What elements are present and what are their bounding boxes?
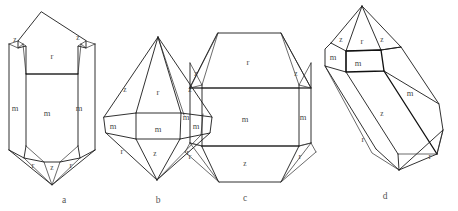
crystal-d-label-z-body: z [380, 109, 384, 118]
crystal-a-caption: a [62, 195, 67, 205]
crystal-b-label-r-upper: r [157, 87, 160, 97]
crystal-d-label-z-right: z [380, 35, 384, 44]
crystal-c-caption: c [243, 193, 247, 203]
crystal-d-left-back-lines [325, 66, 399, 170]
crystal-c-bottom-face [202, 146, 299, 182]
crystal-a-label-r-bot-right: r [70, 160, 73, 170]
crystal-b-caption: b [156, 195, 161, 205]
crystal-b-lower-pyramid [106, 133, 210, 180]
crystal-d-label-r-top: r [361, 36, 364, 46]
crystal-d-prism-front-edge [384, 71, 437, 154]
crystal-d-label-z-left: z [339, 35, 343, 44]
crystal-a-label-m-left: m [12, 103, 19, 113]
crystal-d-label-r-lower: r [362, 134, 365, 144]
crystal-b-group: b zrzmmmrzr [104, 37, 212, 205]
crystal-c-label-m-left: m [183, 112, 190, 122]
crystal-c-bottom-r-left [185, 143, 219, 182]
crystal-d-front-girdle [346, 50, 384, 72]
crystal-diagram-svg: a zrzmmmrzr b zrzmmmrzr [0, 0, 458, 211]
crystal-a-label-m-center: m [44, 108, 51, 118]
crystal-a-label-m-right: m [76, 103, 83, 113]
crystal-c-label-m-right: m [300, 112, 307, 122]
crystal-d-group: d zrzmmmzrr [325, 6, 443, 201]
crystal-a-label-r-top: r [51, 51, 54, 61]
crystal-d-label-r-bottom: r [429, 151, 432, 161]
crystal-c-label-r-bot-right: r [299, 151, 302, 161]
crystal-a-top-termination [18, 12, 86, 74]
crystal-d-label-m-right: m [407, 88, 414, 98]
crystal-d-apex-rays [331, 6, 401, 51]
crystal-c-prism-left-edges [190, 88, 202, 146]
crystal-b-upper-pyramid-inner [158, 37, 184, 115]
crystal-c-bottom-r-right [281, 143, 316, 182]
crystal-a-label-z-top-left: z [13, 35, 17, 44]
crystal-b-label-m-center: m [155, 124, 162, 134]
crystal-d-label-m-small: m [330, 52, 337, 62]
crystal-b-lower-pyramid-inner [157, 135, 201, 180]
crystal-d-caption: d [383, 191, 388, 201]
crystal-c-prism-body [202, 85, 299, 146]
crystal-a-prism-right-top [86, 41, 95, 48]
crystal-b-label-m-right: m [193, 121, 200, 131]
crystal-c-label-z-bottom: z [243, 159, 247, 168]
crystal-a-label-r-bot-left: r [32, 160, 35, 170]
crystal-a-bottom-termination [9, 146, 95, 158]
crystal-b-label-z-upper-left: z [123, 85, 127, 94]
crystal-c-label-r-top: r [247, 57, 250, 67]
crystal-d-lower-termination [376, 130, 443, 170]
crystal-b-label-z-lower: z [153, 149, 157, 158]
crystal-a-label-z-bottom: z [50, 163, 54, 172]
crystal-c-label-r-bot-left: r [189, 151, 192, 161]
crystal-figure-container: a zrzmmmrzr b zrzmmmrzr [0, 0, 458, 211]
crystal-c-top-face [190, 33, 311, 88]
crystal-b-label-m-left: m [110, 121, 117, 131]
crystal-c-prism-outer [190, 63, 311, 143]
crystal-a-group: a zrzmmmrzr [9, 12, 95, 205]
crystal-d-label-m-front: m [355, 58, 362, 68]
crystal-c-label-m-center: m [242, 114, 249, 124]
crystal-c-top-z-left [190, 33, 218, 88]
crystal-c-top-z-right [281, 33, 311, 88]
crystal-c-label-z-top-right: z [294, 69, 298, 78]
crystal-b-label-r-lower-left: r [121, 146, 124, 156]
crystal-d-prism-right-edge [437, 104, 443, 154]
